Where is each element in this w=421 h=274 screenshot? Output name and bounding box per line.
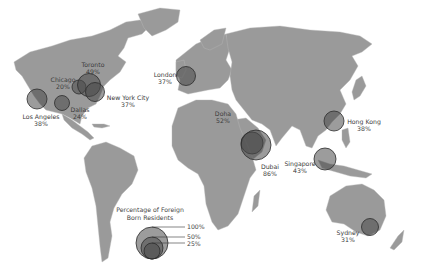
bubble-sydney[interactable] — [362, 219, 379, 236]
city-name: Dubai — [261, 163, 279, 170]
label-singapore: Singapore 43% — [284, 160, 315, 174]
city-name: Hong Kong — [347, 118, 381, 125]
land-new-zealand — [390, 230, 404, 250]
city-name: London — [154, 71, 177, 78]
bubble-dallas[interactable] — [55, 96, 70, 111]
city-pct: 43% — [284, 167, 315, 174]
city-pct: 38% — [23, 120, 60, 127]
city-name: Los Angeles — [23, 113, 60, 120]
land-japan — [352, 76, 366, 100]
bubble-london[interactable] — [177, 67, 196, 86]
city-pct: 37% — [154, 78, 177, 85]
bubble-singapore[interactable] — [314, 148, 336, 170]
legend-label-50: 50% — [187, 233, 201, 240]
city-pct: 49% — [82, 68, 105, 75]
label-dubai: Dubai 86% — [261, 163, 279, 177]
label-dallas: Dallas 24% — [70, 106, 89, 120]
city-name: Dallas — [70, 106, 89, 113]
city-pct: 52% — [215, 117, 231, 124]
city-pct: 37% — [107, 101, 149, 108]
land-south-america — [84, 142, 138, 262]
bubble-hong-kong[interactable] — [324, 111, 344, 131]
city-name: Singapore — [284, 160, 315, 167]
label-london: London 37% — [154, 71, 177, 85]
legend-title: Percentage of Foreign Born Residents — [116, 206, 184, 222]
label-los-angeles: Los Angeles 38% — [23, 113, 60, 127]
label-hong-kong: Hong Kong 38% — [347, 118, 381, 132]
city-name: Toronto — [82, 61, 105, 68]
bubble-new-york-city[interactable] — [86, 83, 105, 102]
land-caribbean — [92, 124, 110, 128]
label-toronto: Toronto 49% — [82, 61, 105, 75]
city-pct: 20% — [51, 83, 76, 90]
legend-circles — [136, 227, 185, 259]
city-pct: 38% — [347, 125, 381, 132]
city-name: Sydney — [337, 229, 360, 236]
legend-label-100: 100% — [187, 223, 205, 230]
bubble-dubai[interactable] — [241, 130, 271, 160]
city-pct: 86% — [261, 170, 279, 177]
bubble-los-angeles[interactable] — [27, 89, 47, 109]
label-sydney: Sydney 31% — [337, 229, 360, 243]
label-doha: Doha 52% — [215, 110, 231, 124]
city-pct: 31% — [337, 236, 360, 243]
city-name: Doha — [215, 110, 231, 117]
city-name: Chicago — [51, 76, 76, 83]
label-chicago: Chicago 20% — [51, 76, 76, 90]
city-name: New York City — [107, 94, 149, 101]
land-madagascar — [252, 190, 260, 212]
legend-label-25: 25% — [187, 240, 201, 247]
city-pct: 24% — [70, 113, 89, 120]
label-new-york-city: New York City 37% — [107, 94, 149, 108]
